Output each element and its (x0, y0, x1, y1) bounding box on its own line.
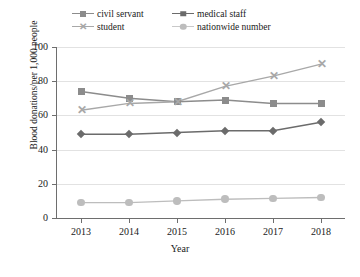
series-lines (0, 0, 360, 277)
data-point-nationwide-number-2015 (173, 197, 181, 205)
data-point-civil-servant-2016 (222, 97, 229, 104)
data-point-nationwide-number-2014 (125, 199, 133, 207)
data-point-student-2015: ✕ (173, 96, 183, 108)
data-point-student-2016: ✕ (221, 80, 231, 92)
series-line-nationwide-number (81, 197, 321, 202)
data-point-nationwide-number-2017 (269, 195, 277, 203)
data-point-student-2017: ✕ (269, 70, 279, 82)
data-point-civil-servant-2013 (78, 88, 85, 95)
data-point-student-2013: ✕ (77, 104, 87, 116)
series-line-civil-servant (81, 91, 321, 103)
data-point-nationwide-number-2018 (317, 194, 325, 202)
data-point-nationwide-number-2013 (77, 199, 85, 207)
series-line-medical-staff (81, 122, 321, 134)
data-point-civil-servant-2018 (318, 100, 325, 107)
line-chart-figure: civil servant medical staff ✕ student (0, 0, 360, 277)
data-point-student-2018: ✕ (317, 58, 327, 70)
data-point-civil-servant-2017 (270, 100, 277, 107)
data-point-student-2014: ✕ (125, 97, 135, 109)
data-point-nationwide-number-2016 (221, 195, 229, 203)
